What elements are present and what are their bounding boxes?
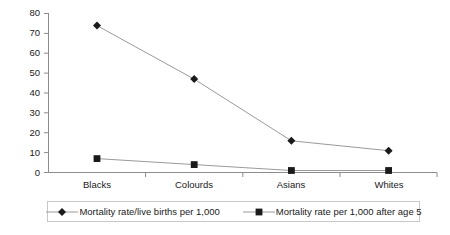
y-axis-tick-label: 80 [16, 8, 40, 18]
legend-entry-series-1[interactable]: Mortality rate/live births per 1,000 [45, 206, 219, 218]
chart-legend: Mortality rate/live births per 1,000 Mor… [47, 201, 420, 222]
square-marker-icon [288, 167, 295, 174]
line-chart: 80 70 60 50 40 30 20 10 0 Blacks Colourd… [0, 0, 450, 235]
square-marker-icon [191, 161, 198, 168]
y-axis-tick-label: 60 [16, 48, 40, 58]
y-axis-tick-label: 10 [16, 148, 40, 158]
diamond-marker-icon [190, 75, 198, 83]
y-axis-tick-label: 50 [16, 68, 40, 78]
x-axis-tick-label: Whites [349, 179, 429, 190]
x-axis-tick-label: Asians [251, 179, 331, 190]
square-marker-icon [94, 155, 101, 162]
legend-label: Mortality rate per 1,000 after age 5 [276, 206, 422, 217]
x-axis-tick-label: Blacks [57, 179, 137, 190]
y-axis-tick-label: 40 [16, 88, 40, 98]
y-axis-ticks [44, 14, 49, 173]
diamond-marker-icon [287, 137, 295, 145]
y-axis-tick-label: 30 [16, 108, 40, 118]
diamond-marker-icon [385, 147, 393, 155]
y-axis-tick-label: 20 [16, 128, 40, 138]
square-marker-icon [242, 206, 276, 218]
series-2-line [97, 159, 389, 171]
diamond-marker-icon [45, 206, 79, 218]
series-2-markers [94, 155, 392, 174]
y-axis-tick-label: 70 [16, 28, 40, 38]
plot-area: 80 70 60 50 40 30 20 10 0 Blacks Colourd… [0, 0, 450, 195]
legend-label: Mortality rate/live births per 1,000 [79, 206, 219, 217]
legend-entry-series-2[interactable]: Mortality rate per 1,000 after age 5 [242, 206, 422, 218]
x-axis-tick-label: Colourds [154, 179, 234, 190]
diamond-marker-icon [93, 22, 101, 30]
y-axis-tick-label: 0 [16, 168, 40, 178]
plot-canvas [0, 0, 450, 195]
square-marker-icon [385, 167, 392, 174]
series-1-markers [93, 22, 393, 155]
series-1-line [97, 26, 389, 151]
